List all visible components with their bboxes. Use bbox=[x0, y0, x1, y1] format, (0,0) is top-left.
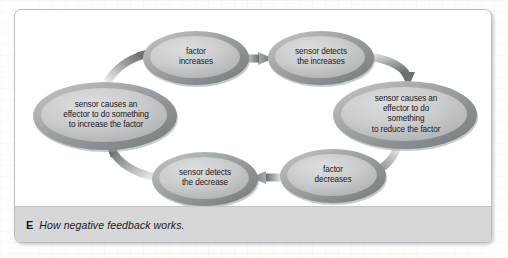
figure-caption-bar: E How negative feedback works. bbox=[15, 206, 491, 242]
figure-card: factor increases sensor detects the incr… bbox=[14, 9, 492, 243]
node-effector-reduce bbox=[333, 81, 478, 151]
node-factor-increases bbox=[143, 31, 250, 87]
node-sensor-detects-decrease bbox=[152, 152, 259, 206]
figure-caption-text: How negative feedback works. bbox=[39, 219, 184, 231]
node-sensor-detects-increase bbox=[268, 31, 375, 87]
node-factor-decreases bbox=[280, 149, 387, 205]
figure-caption-letter: E bbox=[26, 219, 33, 231]
negative-feedback-cycle-diagram: factor increases sensor detects the incr… bbox=[15, 10, 491, 206]
node-effector-increase bbox=[33, 82, 178, 152]
